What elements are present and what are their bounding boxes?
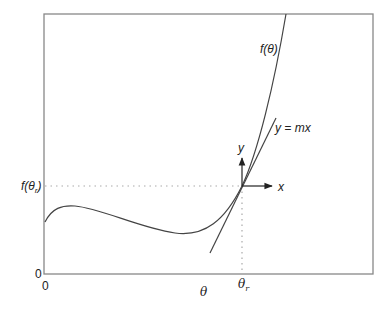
diagram-canvas: f(θ) y = mx y x f(θr) 0 0 θ θr bbox=[0, 0, 391, 314]
tangent-label: y = mx bbox=[274, 121, 312, 135]
local-x-label: x bbox=[277, 180, 285, 194]
curve-label: f(θ) bbox=[260, 42, 278, 56]
x-axis-title: θ bbox=[200, 285, 208, 299]
y-origin-label: 0 bbox=[35, 267, 42, 281]
x-origin-label: 0 bbox=[42, 279, 49, 293]
y-tick-label: f(θr) bbox=[21, 179, 42, 195]
plot-frame bbox=[44, 14, 373, 274]
function-curve bbox=[45, 14, 286, 234]
x-tick-label: θr bbox=[238, 277, 250, 293]
local-y-label: y bbox=[237, 141, 245, 155]
